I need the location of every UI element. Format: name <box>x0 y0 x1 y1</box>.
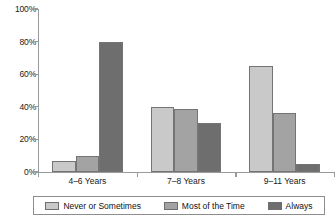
y-axis-tick <box>33 74 38 75</box>
bar <box>52 161 76 172</box>
bars-layer <box>38 0 334 180</box>
y-axis-tick <box>33 41 38 42</box>
bar <box>99 42 123 172</box>
x-axis-group-label: 9–11 Years <box>264 176 306 186</box>
chart-legend: Never or SometimesMost of the TimeAlways <box>33 196 325 215</box>
chart-container: 0%20%40%60%80%100% 4–6 Years7–8 Years9–1… <box>0 0 336 219</box>
y-axis-tick <box>33 106 38 107</box>
y-axis-tick <box>33 139 38 140</box>
plot-area: 0%20%40%60%80%100% 4–6 Years7–8 Years9–1… <box>0 0 336 180</box>
x-axis-group-label: 7–8 Years <box>167 176 205 186</box>
y-axis-labels: 0%20%40%60%80%100% <box>0 0 36 180</box>
legend-item: Always <box>268 201 313 211</box>
bar <box>249 66 273 172</box>
y-axis-tick <box>33 8 38 9</box>
x-axis-group-label: 4–6 Years <box>68 176 106 186</box>
legend-swatch-icon <box>45 202 59 210</box>
bar <box>76 156 100 172</box>
x-axis-tick <box>137 172 138 177</box>
legend-label: Always <box>286 201 313 211</box>
x-axis-group-labels: 4–6 Years7–8 Years9–11 Years <box>38 174 334 190</box>
legend-swatch-icon <box>164 202 178 210</box>
x-axis-tick <box>334 172 335 177</box>
bar <box>151 107 175 172</box>
legend-item: Never or Sometimes <box>45 201 140 211</box>
legend-label: Never or Sometimes <box>63 201 140 211</box>
x-axis-tick <box>235 172 236 177</box>
legend-label: Most of the Time <box>182 201 245 211</box>
legend-swatch-icon <box>268 202 282 210</box>
bar <box>198 123 222 172</box>
legend-item: Most of the Time <box>164 201 245 211</box>
bar <box>174 109 198 172</box>
bar <box>273 113 297 172</box>
bar <box>296 164 320 172</box>
x-axis-tick <box>38 172 39 177</box>
